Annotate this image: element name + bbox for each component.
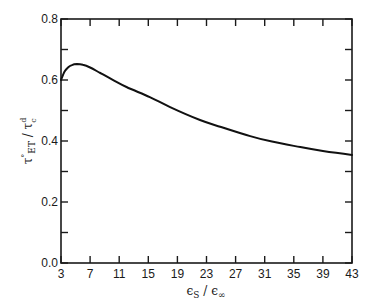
x-tick-label: 27	[229, 267, 243, 281]
x-axis-ticks	[61, 19, 352, 263]
x-tick-label: 35	[287, 267, 301, 281]
x-axis-tick-labels: 37111519232731353943	[58, 267, 359, 281]
y-tick-label: 0.8	[41, 12, 58, 26]
svg-text:ϵS / ϵ∞: ϵS / ϵ∞	[187, 284, 226, 300]
y-axis-ticks	[61, 19, 352, 263]
x-tick-label: 7	[87, 267, 94, 281]
y-tick-label: 0.2	[41, 195, 58, 209]
x-tick-label: 23	[200, 267, 214, 281]
x-tick-label: 39	[316, 267, 330, 281]
plot-frame	[61, 19, 352, 263]
x-tick-label: 11	[113, 267, 126, 281]
y-tick-label: 0.0	[41, 256, 58, 270]
x-axis-title: ϵS / ϵ∞	[187, 284, 226, 300]
y-tick-label: 0.4	[41, 134, 58, 148]
x-tick-label: 19	[171, 267, 185, 281]
y-tick-label: 0.6	[41, 73, 58, 87]
x-tick-label: 3	[58, 267, 65, 281]
x-tick-label: 15	[142, 267, 156, 281]
y-axis-tick-labels: 0.00.20.40.60.8	[41, 12, 58, 270]
data-line	[61, 64, 352, 155]
y-axis-title: τ°ET / τdc	[19, 118, 38, 165]
svg-text:τ°ET / τdc: τ°ET / τdc	[19, 118, 38, 165]
line-chart: 37111519232731353943 0.00.20.40.60.8 ϵS …	[0, 0, 374, 305]
x-tick-label: 31	[258, 267, 272, 281]
x-tick-label: 43	[345, 267, 359, 281]
